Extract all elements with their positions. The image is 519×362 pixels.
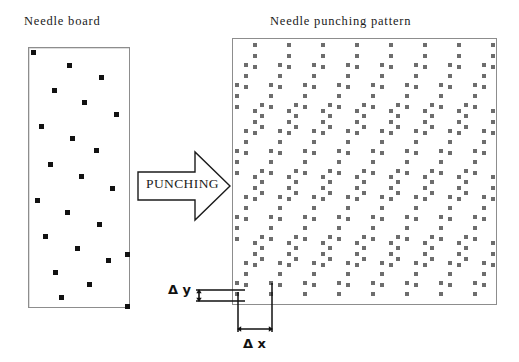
- delta-x-label: Δ x: [243, 336, 266, 352]
- delta-y-label: Δ y: [168, 282, 191, 298]
- dimension-annotations: [0, 0, 519, 362]
- delta-x-text: Δ x: [243, 336, 266, 351]
- delta-y-text: Δ y: [168, 282, 191, 297]
- needle-punching-figure: Needle board Needle punching pattern PUN…: [0, 0, 519, 362]
